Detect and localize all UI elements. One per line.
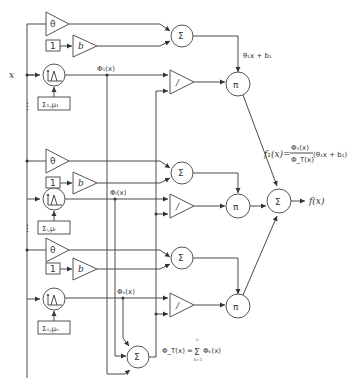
svg-text:k=1: k=1: [194, 357, 203, 362]
final-sum-wiring: Σ f(x): [243, 95, 325, 295]
product-label-1: π: [233, 80, 239, 90]
svg-text:Φ₁(x): Φ₁(x): [291, 144, 309, 152]
phi-label-1: Φ₁(x): [97, 65, 115, 73]
output-label: f(x): [308, 196, 325, 206]
svg-text:Σ: Σ: [178, 253, 184, 263]
unit-i: θ 1 b Σ Σᵢ,μᵢ Φᵢ(x) / π: [38, 149, 250, 234]
ellipsis-2: ⋮: [23, 223, 32, 233]
svg-text:(θ₁x + b₁): (θ₁x + b₁): [313, 151, 348, 159]
sum-label-1: Σ: [178, 31, 184, 41]
input-x-label: x: [9, 70, 14, 80]
svg-text:Σᵢ,μᵢ: Σᵢ,μᵢ: [42, 225, 56, 233]
total-sum-label: Σ: [134, 352, 140, 362]
rbf-node-1: [43, 64, 65, 86]
unit-1: θ 1 b Σ θ₁x + b₁ Σ₁,μ₁ Φ₁(x) / π: [38, 12, 272, 110]
bias-label-1: b: [78, 41, 84, 51]
svg-text:θ: θ: [50, 156, 56, 166]
svg-text:Σₙ,μₙ: Σₙ,μₙ: [42, 325, 59, 333]
svg-text:n: n: [196, 337, 199, 342]
divider-i: [170, 194, 194, 218]
rbf-node-n: [43, 288, 65, 310]
svg-text:θ: θ: [50, 245, 56, 255]
theta-label-1: θ: [50, 19, 56, 29]
svg-text:Φᵢ(x): Φᵢ(x): [110, 189, 127, 197]
svg-text:b: b: [78, 264, 84, 274]
svg-text:b: b: [78, 178, 84, 188]
unit-n: θ 1 b Σ Σₙ,μₙ Φₙ(x) / π: [38, 238, 250, 334]
divider-n: [170, 293, 194, 317]
svg-text:π: π: [233, 202, 239, 212]
svg-text:π: π: [233, 302, 239, 312]
rbf-params-label-1: Σ₁,μ₁: [42, 101, 59, 109]
svg-text:1: 1: [50, 178, 56, 188]
linear-term-label-1: θ₁x + b₁: [243, 52, 272, 60]
svg-text:Φₖ(x): Φₖ(x): [203, 347, 221, 355]
svg-text:f₁(x)=: f₁(x)=: [263, 149, 291, 159]
bias-gain-1: [73, 35, 97, 57]
svg-text:Σ: Σ: [178, 168, 184, 178]
final-sum-label: Σ: [275, 197, 281, 207]
phi-total-wiring: Σ: [107, 75, 156, 374]
svg-text:Σ: Σ: [194, 347, 200, 357]
svg-text:1: 1: [50, 264, 56, 274]
f1-equation: f₁(x)= Φ₁(x) Φ_T(x) (θ₁x + b₁): [263, 144, 348, 164]
rbf-node-i: [43, 188, 65, 210]
one-label-1: 1: [50, 41, 56, 51]
svg-text:Φ_T(x): Φ_T(x): [291, 156, 314, 164]
ellipsis-1: ⋮: [23, 101, 32, 111]
rbf-network-diagram: x ⋮ ⋮ θ 1 b Σ θ₁x + b₁ Σ₁,μ₁ Φ₁(x) / π: [0, 0, 360, 386]
svg-text:Φ_T(x) =: Φ_T(x) =: [162, 347, 193, 355]
divider-1: [170, 70, 194, 94]
svg-text:Φₙ(x): Φₙ(x): [117, 288, 135, 296]
phi-total-equation: Φ_T(x) = n Σ k=1 Φₖ(x): [162, 337, 221, 362]
